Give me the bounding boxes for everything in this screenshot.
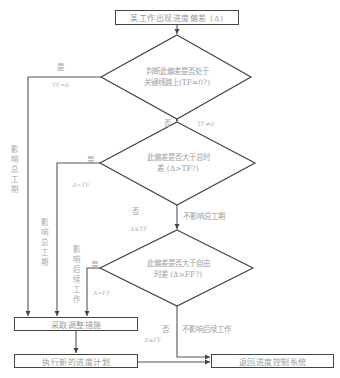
decision-critical-path-line1: 判断此偏差是否处于 [118, 66, 236, 77]
decision1-yes-condition: TF=0 [52, 81, 69, 88]
decision1-no-condition: TF≠0 [197, 120, 214, 127]
decision-critical-path-line2: 关键线路上(TF=0?) [118, 77, 236, 88]
side-label-total-duration-1: 影响总工期 [10, 145, 19, 195]
execute-new-plan-label: 执行新的进度计划 [42, 356, 110, 367]
side-label-total-duration-2: 影响总工期 [40, 218, 49, 268]
decision2-no-note: 不影响总工期 [183, 210, 225, 221]
start-box-label: 某工作出现进度偏差 (Δ) [130, 12, 223, 23]
adjust-measures-label: 采取调整措施 [51, 319, 102, 330]
adjust-measures-box: 采取调整措施 [14, 317, 138, 331]
decision-total-float-line1: 此偏差是否大于总时 [118, 152, 238, 163]
decision3-no-note: 不影响后续工作 [182, 323, 231, 334]
decision-critical-path: 判断此偏差是否处于 关键线路上(TF=0?) [118, 66, 236, 88]
decision1-no-label: 否 [164, 117, 171, 128]
decision2-no-condition: Δ≤TF [130, 225, 148, 232]
decision2-yes-label: 是 [87, 154, 94, 165]
start-box: 某工作出现进度偏差 (Δ) [115, 10, 239, 25]
decision3-yes-condition: Δ>FF [93, 289, 111, 296]
decision2-no-label: 否 [132, 205, 139, 216]
execute-new-plan-box: 执行新的进度计划 [14, 354, 138, 368]
decision2-yes-condition: Δ>TF [72, 181, 90, 188]
decision-total-float-line2: 差 (Δ>TF?) [118, 163, 238, 174]
decision3-no-label: 否 [162, 323, 169, 334]
return-control-system-label: 返回进度控制系统 [239, 356, 307, 367]
return-control-system-box: 返回进度控制系统 [211, 354, 334, 368]
side-label-subsequent-work: 影响后续工作 [72, 245, 81, 305]
decision-free-float-line2: 时差 (Δ>FF?) [118, 269, 238, 280]
decision-free-float-line1: 此偏差是否大于自由 [118, 258, 238, 269]
decision3-yes-label: 是 [91, 259, 98, 270]
decision-total-float: 此偏差是否大于总时 差 (Δ>TF?) [118, 152, 238, 174]
decision3-no-condition: Δ≤FF [144, 336, 162, 343]
decision1-yes-label: 是 [57, 61, 64, 72]
decision-free-float: 此偏差是否大于自由 时差 (Δ>FF?) [118, 258, 238, 280]
